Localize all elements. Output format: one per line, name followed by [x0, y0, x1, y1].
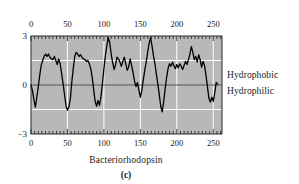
- x-axis-title: Bacteriorhodopsin: [0, 155, 252, 165]
- panel-caption: (c): [0, 170, 252, 180]
- x-tick-label-100: 100: [89, 20, 119, 29]
- x-tick-label-200: 200: [162, 139, 192, 148]
- x-tick-label-0: 0: [16, 20, 46, 29]
- hydrophobic-label: Hydrophobic: [227, 71, 278, 81]
- x-tick-label-250: 250: [198, 139, 228, 148]
- x-tick-label-200: 200: [162, 20, 192, 29]
- x-tick-label-250: 250: [198, 20, 228, 29]
- x-tick-label-0: 0: [16, 139, 46, 148]
- y-tick-label-neg3: −3: [5, 130, 27, 139]
- y-tick-label-0: 0: [5, 81, 27, 90]
- hydrophilic-label: Hydrophilic: [227, 87, 274, 97]
- x-tick-label-50: 50: [52, 20, 82, 29]
- hydropathy-figure: 050100150200250 050100150200250 30−3 Hyd…: [0, 0, 299, 184]
- y-tick-label-3: 3: [5, 32, 27, 41]
- x-tick-label-50: 50: [52, 139, 82, 148]
- x-tick-label-100: 100: [89, 139, 119, 148]
- x-tick-label-150: 150: [125, 20, 155, 29]
- x-tick-label-150: 150: [125, 139, 155, 148]
